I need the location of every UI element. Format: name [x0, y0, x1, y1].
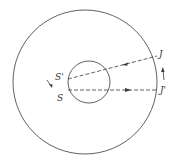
label-s-prime: S' — [55, 72, 64, 82]
arrow-icon-j-motion — [161, 67, 165, 72]
arrow-icon-toward-jprime — [125, 88, 131, 92]
dashed-line-sprime-j — [68, 56, 157, 79]
inner-circle — [68, 61, 110, 103]
arrow-icon-s-motion — [49, 84, 53, 88]
label-s: S — [57, 93, 63, 103]
diagram-canvas: S' S J J' — [0, 0, 176, 164]
arrow-icon-toward-sprime — [122, 63, 128, 66]
label-j: J — [157, 49, 164, 59]
label-j-prime: J' — [158, 85, 166, 95]
outer-circle — [13, 10, 157, 154]
